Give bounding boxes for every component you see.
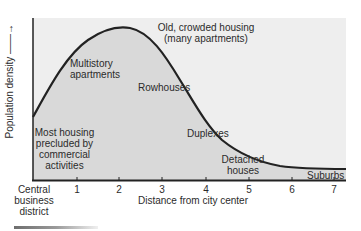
origin-label: Central business district <box>6 184 62 217</box>
annotation-line: houses <box>218 165 268 176</box>
annotation-line: apartments <box>70 69 120 80</box>
origin-label-line: Central <box>6 184 62 195</box>
urban-density-diagram: Population density ——→ 1 2 3 4 5 6 7 Cen… <box>0 0 361 231</box>
annotation-line: precluded by <box>33 138 96 149</box>
x-tick-1: 1 <box>71 184 83 195</box>
decorative-gradient-bar <box>14 226 98 229</box>
x-axis-label: Distance from city center <box>128 195 258 206</box>
x-tick-7: 7 <box>328 184 340 195</box>
annotation-line: Old, crowded housing <box>146 22 266 33</box>
annotation-line: activities <box>33 160 96 171</box>
annotation-rowhouses: Rowhouses <box>138 82 190 93</box>
annotation-suburbs: Suburbs <box>307 170 344 181</box>
x-tick-6: 6 <box>286 184 298 195</box>
annotation-line: Most housing <box>33 127 96 138</box>
annotation-line: Multistory <box>70 58 120 69</box>
annotation-cbd: Most housing precluded by commercial act… <box>33 127 96 171</box>
x-tick-3: 3 <box>156 184 168 195</box>
origin-label-line: business <box>6 195 62 206</box>
annotation-duplexes: Duplexes <box>187 128 229 139</box>
annotation-old-crowded-housing: Old, crowded housing (many apartments) <box>146 22 266 44</box>
annotation-multistory-apartments: Multistory apartments <box>70 58 120 80</box>
x-tick-5: 5 <box>243 184 255 195</box>
origin-label-line: district <box>6 206 62 217</box>
x-tick-4: 4 <box>200 184 212 195</box>
annotation-line: commercial <box>33 149 96 160</box>
annotation-line: Detached <box>218 154 268 165</box>
x-tick-2: 2 <box>113 184 125 195</box>
y-axis-label: Population density ——→ <box>4 57 15 139</box>
annotation-detached-houses: Detached houses <box>218 154 268 176</box>
annotation-line: (many apartments) <box>146 33 266 44</box>
